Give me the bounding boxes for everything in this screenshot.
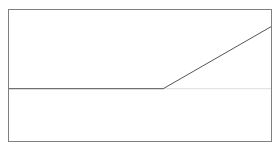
line-chart [0, 0, 279, 150]
plot-area [8, 9, 271, 141]
